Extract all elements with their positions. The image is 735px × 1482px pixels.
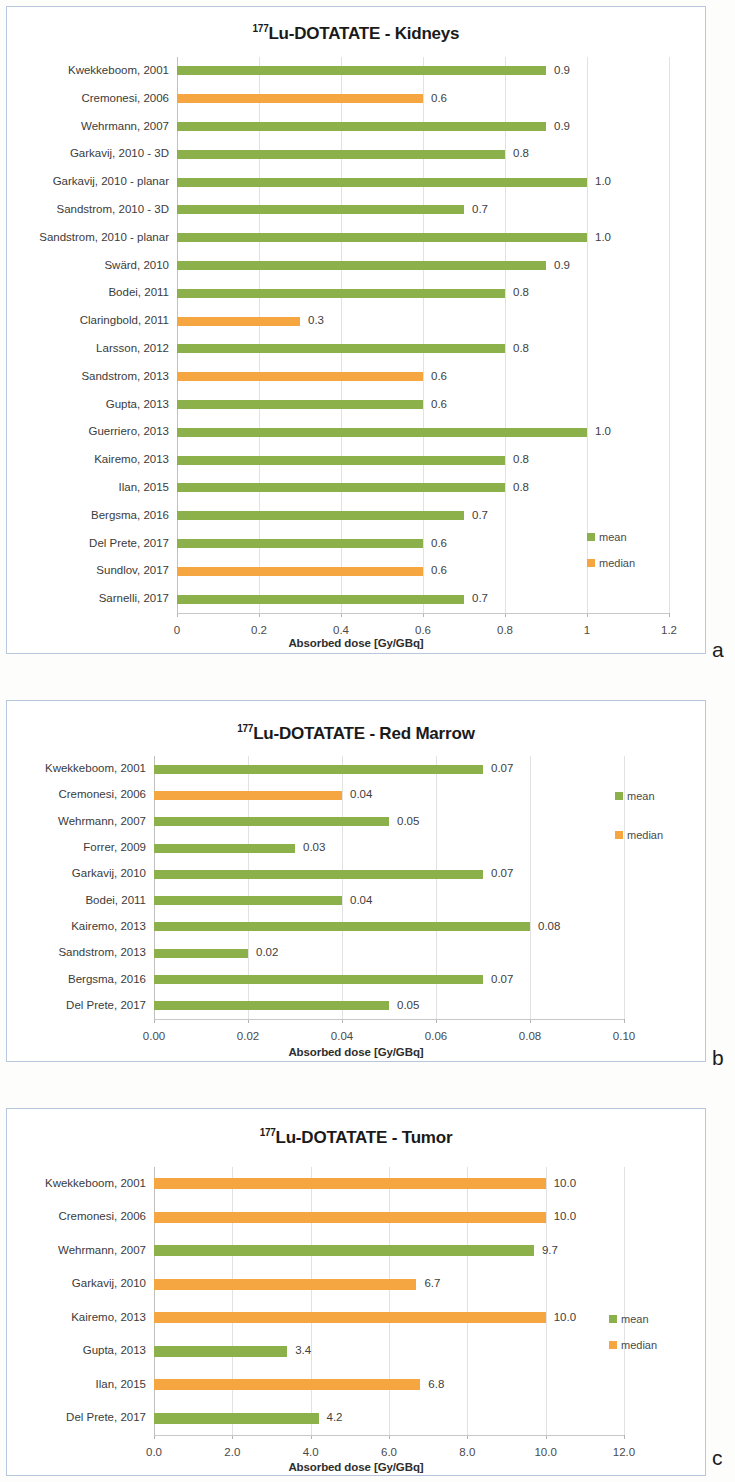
- bar: [177, 483, 505, 492]
- gridline: [389, 1167, 390, 1435]
- x-tick-label: 0.2: [219, 625, 299, 637]
- bar: [154, 1346, 287, 1357]
- x-tick-label: 2.0: [192, 1447, 272, 1459]
- category-label: Bergsma, 2016: [7, 974, 146, 986]
- bar-value-label: 1.0: [595, 232, 611, 244]
- bar-value-label: 0.9: [554, 121, 570, 133]
- chart-title-superscript-tumor: 177: [260, 1127, 276, 1138]
- legend-kidneys: mean median: [587, 527, 635, 579]
- category-label: Kairemo, 2013: [7, 921, 146, 933]
- bar: [154, 1001, 389, 1010]
- bar: [154, 975, 483, 984]
- gridline: [259, 57, 260, 613]
- bar-value-label: 0.6: [431, 538, 447, 550]
- bar-value-label: 0.07: [491, 763, 513, 775]
- bar: [154, 1212, 546, 1223]
- legend-red-marrow: mean median: [615, 786, 663, 851]
- bar: [177, 122, 546, 131]
- panel-kidneys: 177Lu-DOTATATE - Kidneys Kwekkeboom, 200…: [6, 6, 706, 654]
- bar: [154, 1312, 546, 1323]
- category-label: Garkavij, 2010 - planar: [7, 176, 169, 188]
- category-label: Larsson, 2012: [7, 343, 169, 355]
- x-tick-label: 0.04: [302, 1031, 382, 1043]
- bar-value-label: 6.7: [424, 1278, 440, 1290]
- chart-title-red-marrow: 177Lu-DOTATATE - Red Marrow: [7, 723, 705, 744]
- figure-root: 177Lu-DOTATATE - Kidneys Kwekkeboom, 200…: [0, 0, 735, 1482]
- legend-label-median: median: [599, 557, 635, 569]
- bar: [177, 400, 423, 409]
- bar: [154, 949, 248, 958]
- bar-value-label: 0.8: [513, 343, 529, 355]
- legend-label-mean: mean: [621, 1313, 649, 1325]
- gridline: [311, 1167, 312, 1435]
- x-tick-label: 10.0: [506, 1447, 586, 1459]
- bar: [177, 317, 300, 326]
- category-label: Gupta, 2013: [7, 1345, 146, 1357]
- bar-value-label: 10.0: [554, 1211, 576, 1223]
- category-label: Claringbold, 2011: [7, 315, 169, 327]
- legend-item-median: median: [587, 553, 635, 570]
- legend-swatch-median: [615, 831, 623, 839]
- x-tick-label: 0.10: [584, 1031, 664, 1043]
- x-axis-line: [154, 1019, 624, 1020]
- bar: [177, 94, 423, 103]
- x-tick-mark: [669, 613, 670, 617]
- category-label: Ilan, 2015: [7, 482, 169, 494]
- bar: [177, 233, 587, 242]
- category-label: Cremonesi, 2006: [7, 93, 169, 105]
- category-label: Swärd, 2010: [7, 260, 169, 272]
- bar-value-label: 0.9: [554, 65, 570, 77]
- bar-value-label: 0.7: [472, 204, 488, 216]
- bar-value-label: 0.9: [554, 260, 570, 272]
- x-tick-label: 0.08: [490, 1031, 570, 1043]
- bar-value-label: 0.8: [513, 454, 529, 466]
- bar-value-label: 0.08: [538, 921, 560, 933]
- category-label: Sundlov, 2017: [7, 565, 169, 577]
- gridline: [177, 57, 178, 613]
- x-tick-label: 0.06: [396, 1031, 476, 1043]
- category-label: Ilan, 2015: [7, 1379, 146, 1391]
- panel-tumor: 177Lu-DOTATATE - Tumor Kwekkeboom, 2001C…: [6, 1108, 706, 1476]
- category-label: Bergsma, 2016: [7, 510, 169, 522]
- gridline: [154, 1167, 155, 1435]
- bar: [177, 205, 464, 214]
- category-label: Kwekkeboom, 2001: [7, 65, 169, 77]
- x-tick-label: 6.0: [349, 1447, 429, 1459]
- bar-value-label: 9.7: [542, 1245, 558, 1257]
- bar: [177, 261, 546, 270]
- legend-swatch-median: [587, 559, 595, 567]
- bar-value-label: 0.02: [256, 947, 278, 959]
- gridline: [232, 1167, 233, 1435]
- bar: [177, 428, 587, 437]
- category-label: Wehrmann, 2007: [7, 1245, 146, 1257]
- bar-value-label: 4.2: [327, 1412, 343, 1424]
- bar-value-label: 0.8: [513, 287, 529, 299]
- category-label: Guerriero, 2013: [7, 426, 169, 438]
- category-label: Kwekkeboom, 2001: [7, 763, 146, 775]
- bar-value-label: 0.03: [303, 842, 325, 854]
- category-label: Del Prete, 2017: [7, 1000, 146, 1012]
- bar-value-label: 3.4: [295, 1345, 311, 1357]
- bar: [154, 896, 342, 905]
- category-label: Kwekkeboom, 2001: [7, 1178, 146, 1190]
- panel-letter-c: c: [712, 1446, 723, 1470]
- bar: [154, 844, 295, 853]
- gridline: [624, 1167, 625, 1435]
- bar: [154, 1413, 319, 1424]
- legend-label-median: median: [621, 1339, 657, 1351]
- category-label: Sandstrom, 2013: [7, 371, 169, 383]
- category-label: Bodei, 2011: [7, 895, 146, 907]
- x-tick-label: 0.8: [465, 625, 545, 637]
- bar-value-label: 0.6: [431, 399, 447, 411]
- x-tick-label: 0: [137, 625, 217, 637]
- legend-label-median: median: [627, 829, 663, 841]
- x-tick-mark: [624, 1435, 625, 1439]
- bar: [154, 1245, 534, 1256]
- x-tick-label: 0.02: [208, 1031, 288, 1043]
- bar-value-label: 0.05: [397, 816, 419, 828]
- category-label: Sandstrom, 2010 - planar: [7, 232, 169, 244]
- x-tick-label: 1.2: [629, 625, 709, 637]
- gridline: [669, 57, 670, 613]
- legend-item-median: median: [615, 825, 663, 842]
- category-label: Sarnelli, 2017: [7, 593, 169, 605]
